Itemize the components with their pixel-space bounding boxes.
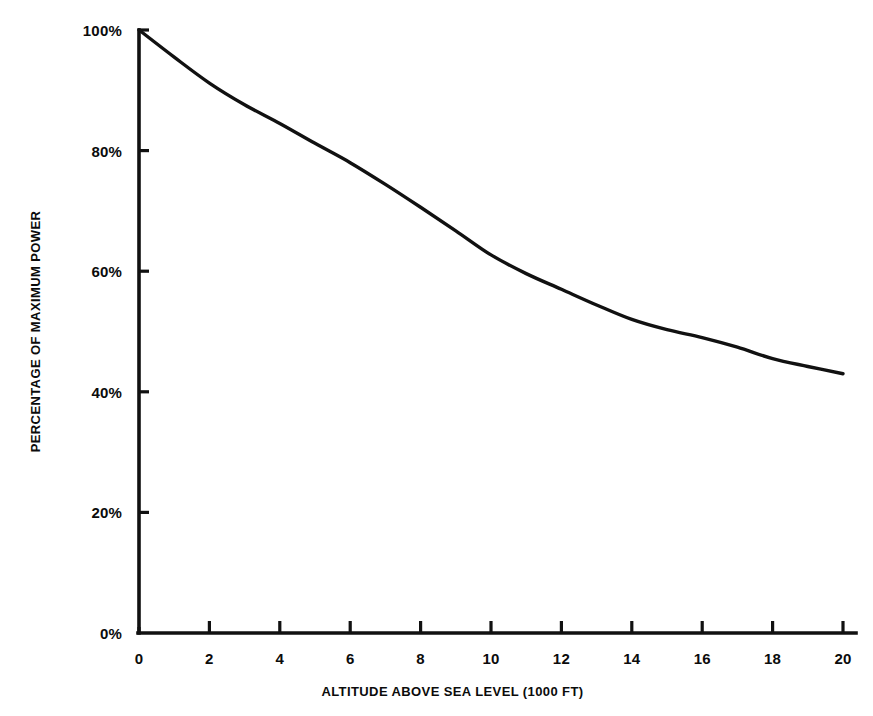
x-axis-tick-label: 12 [553, 650, 570, 667]
y-axis-tick-label: 60% [40, 263, 122, 280]
y-axis-tick-label: 80% [40, 142, 122, 159]
y-axis-tick-label: 100% [40, 22, 122, 39]
x-axis-tick-label: 2 [205, 650, 214, 667]
y-axis-tick-label: 0% [40, 625, 122, 642]
y-axis-tick-label: 40% [40, 383, 122, 400]
chart-plot-area [0, 0, 873, 716]
chart-container: 0%20%40%60%80%100% 02468101214161820 PER… [0, 0, 873, 716]
axis-lines [138, 30, 856, 633]
x-axis-tick-label: 18 [764, 650, 781, 667]
x-axis-tick-label: 0 [135, 650, 144, 667]
y-axis-tick-label: 20% [40, 504, 122, 521]
power-altitude-curve [139, 30, 843, 374]
x-axis-tick-label: 8 [416, 650, 425, 667]
x-axis-tick-label: 16 [694, 650, 711, 667]
x-axis-tick-label: 10 [482, 650, 499, 667]
x-axis-tick-label: 20 [834, 650, 851, 667]
x-axis-title: ALTITUDE ABOVE SEA LEVEL (1000 FT) [16, 684, 873, 699]
y-axis-title: PERCENTAGE OF MAXIMUM POWER [28, 211, 43, 453]
x-axis-tick-label: 6 [346, 650, 355, 667]
x-axis-tick-label: 4 [276, 650, 285, 667]
x-axis-tick-label: 14 [623, 650, 640, 667]
